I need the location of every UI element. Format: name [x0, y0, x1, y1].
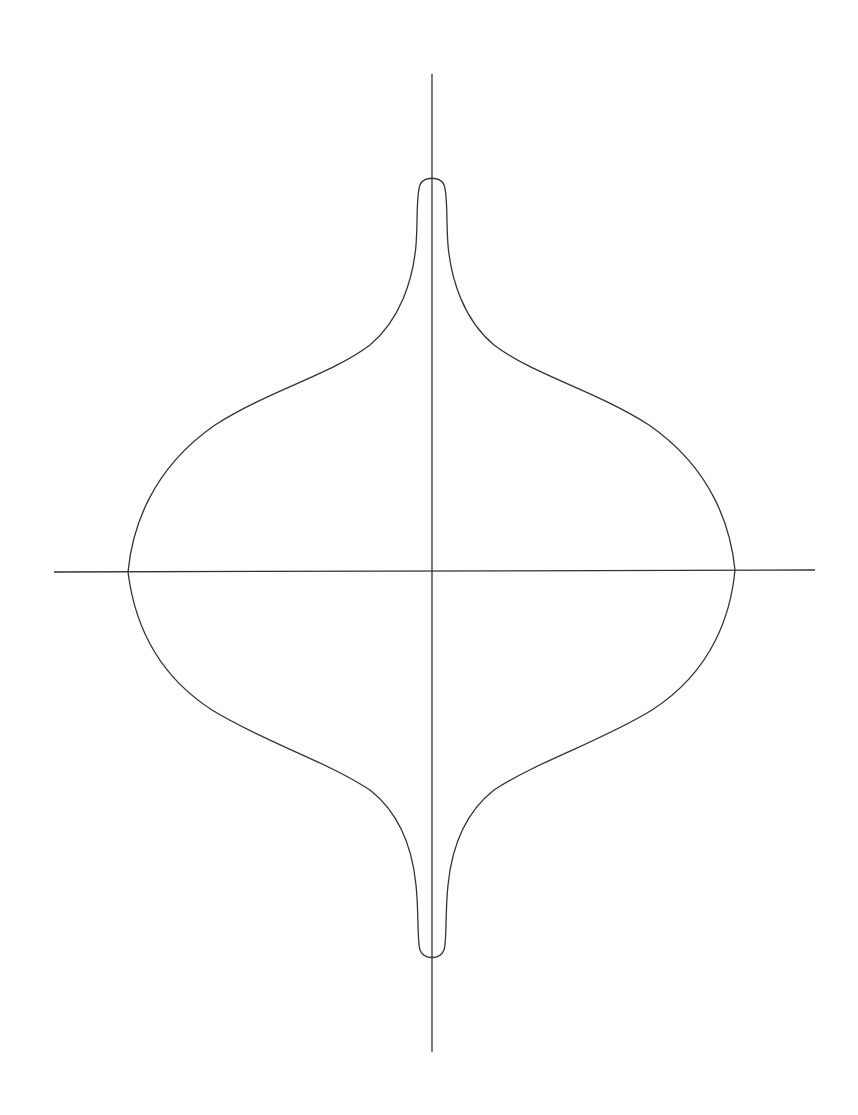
x-axis: [54, 570, 815, 572]
curve-figure: [0, 0, 858, 1115]
